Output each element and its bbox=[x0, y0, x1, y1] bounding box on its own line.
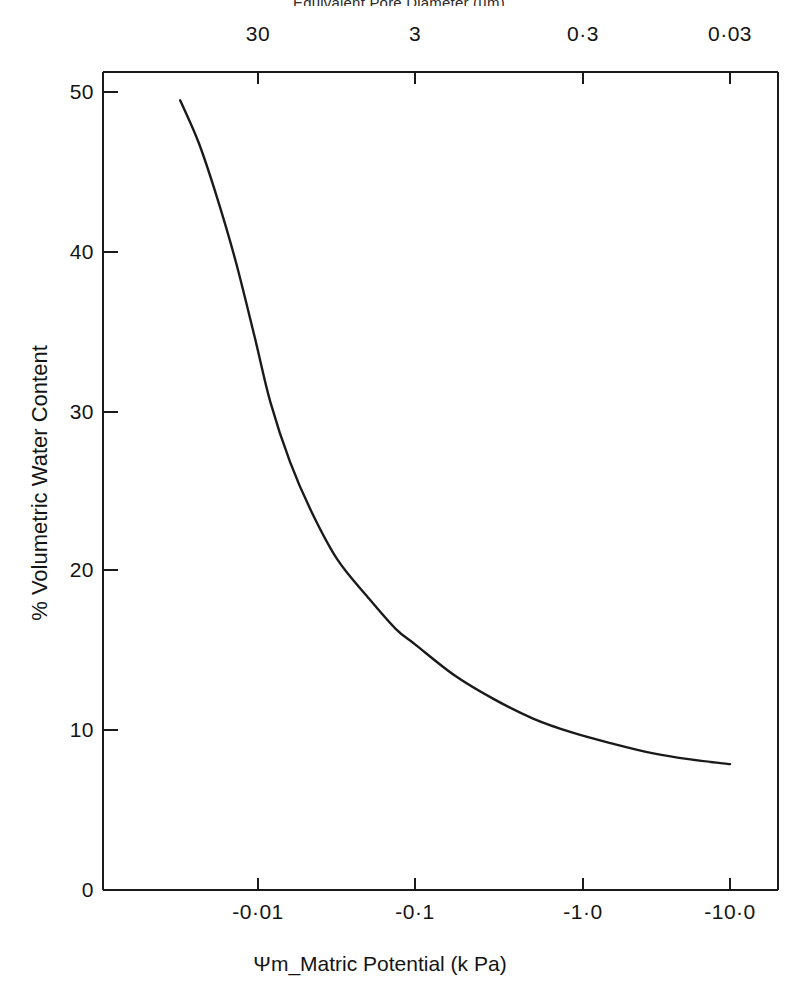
top-tick-label-0-3: 0·3 bbox=[567, 22, 599, 46]
top-tick-label-3: 3 bbox=[409, 22, 421, 46]
water-retention-curve bbox=[180, 100, 730, 764]
x-axis-ticks bbox=[258, 878, 730, 890]
y-tick-label-0: 0 bbox=[50, 878, 94, 902]
x-tick-label-1-0: -1·0 bbox=[563, 900, 602, 924]
y-axis-ticks bbox=[103, 92, 118, 890]
y-tick-label-20: 20 bbox=[50, 558, 94, 582]
top-tick-label-30: 30 bbox=[246, 22, 270, 46]
y-tick-label-40: 40 bbox=[50, 240, 94, 264]
x-tick-label-0-1: -0·1 bbox=[395, 900, 434, 924]
x-tick-label-10-0: -10·0 bbox=[704, 900, 756, 924]
axis-frame bbox=[103, 72, 778, 890]
top-tick-label-0-03: 0·03 bbox=[708, 22, 752, 46]
x-axis-title: Ψm_Matric Potential (k Pa) bbox=[0, 952, 760, 976]
y-axis-title: % Volumetric Water Content bbox=[27, 263, 53, 703]
chart-canvas bbox=[0, 0, 798, 1000]
y-tick-label-30: 30 bbox=[50, 400, 94, 424]
x-tick-label-0-01: -0·01 bbox=[232, 900, 284, 924]
y-tick-label-50: 50 bbox=[50, 80, 94, 104]
top-axis-ticks bbox=[258, 72, 730, 84]
figure-container: Equivalent Pore Diameter (µm) bbox=[0, 0, 798, 1000]
y-tick-label-10: 10 bbox=[50, 718, 94, 742]
